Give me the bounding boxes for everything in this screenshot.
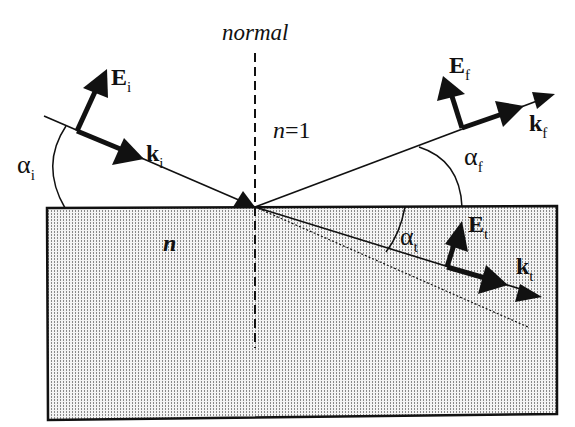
reflected-k-label: kf [529,110,547,141]
incident-e-label: Ei [111,64,131,95]
medium-block [47,206,557,420]
incident-angle-label: αi [17,150,35,183]
incident-k-label: ki [146,140,164,171]
reflected-e-arrowhead [437,76,465,101]
reflected-ray-arrowhead [532,92,555,109]
reflected-e-label: Ef [449,52,470,83]
normal-label: normal [222,20,288,45]
diagram-canvas: normal n=1 n Ei ki Ef kf Et kt αi αf αt [0,0,575,427]
reflected-angle-label: αf [464,142,483,175]
incident-k-arrowhead [112,138,144,165]
medium-index-label: n [163,230,176,256]
outside-index-label: n=1 [273,117,311,143]
reflected-k-arrowhead [495,101,524,127]
angle-arc-incident [53,126,66,208]
angle-arc-reflected [419,147,462,207]
